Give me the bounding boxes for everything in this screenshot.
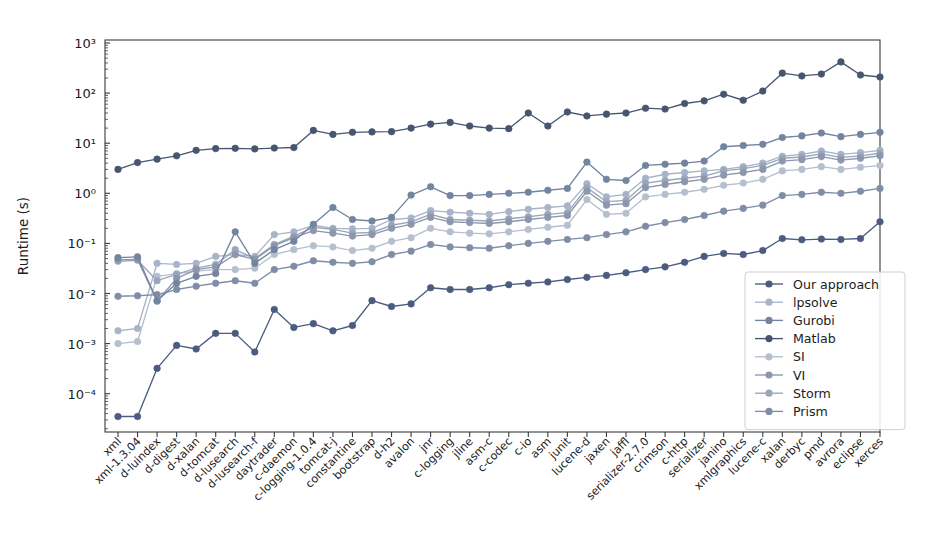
y-tick-label: 10⁻³	[67, 337, 96, 352]
legend-label: Gurobi	[793, 313, 835, 328]
data-point	[545, 214, 552, 221]
data-point	[173, 280, 180, 287]
data-point	[310, 221, 317, 228]
data-point	[193, 283, 200, 290]
data-point	[603, 176, 610, 183]
data-point	[466, 123, 473, 130]
data-point	[681, 100, 688, 107]
data-point	[408, 192, 415, 199]
data-point	[838, 133, 845, 140]
data-point	[740, 169, 747, 176]
chart-legend: Our approachlpsolveGurobiMatlabSIVIStorm…	[745, 272, 905, 430]
data-point	[466, 210, 473, 217]
data-point	[408, 301, 415, 308]
data-point	[193, 273, 200, 280]
data-point	[720, 172, 727, 179]
data-point	[564, 276, 571, 283]
data-point	[857, 188, 864, 195]
data-point	[115, 328, 122, 335]
data-point	[369, 218, 376, 225]
data-point	[779, 70, 786, 77]
data-point	[564, 203, 571, 210]
data-point	[486, 284, 493, 291]
data-point	[486, 191, 493, 198]
data-point	[349, 233, 356, 240]
data-point	[877, 129, 884, 136]
data-point	[466, 219, 473, 226]
data-point	[701, 186, 708, 193]
data-point	[466, 230, 473, 237]
y-tick-label: 10⁻²	[67, 287, 96, 302]
data-point	[662, 264, 669, 271]
data-point	[720, 250, 727, 257]
data-point	[662, 171, 669, 178]
data-point	[779, 158, 786, 165]
data-point	[662, 161, 669, 168]
data-point	[740, 142, 747, 149]
data-point	[271, 246, 278, 253]
data-point	[310, 257, 317, 264]
data-point	[701, 176, 708, 183]
data-point	[877, 185, 884, 192]
data-point	[232, 266, 239, 273]
data-point	[584, 188, 591, 195]
data-point	[212, 330, 219, 337]
data-point	[408, 248, 415, 255]
data-point	[369, 245, 376, 252]
data-point	[779, 192, 786, 199]
data-point	[427, 121, 434, 128]
data-point	[818, 236, 825, 243]
data-point	[584, 159, 591, 166]
data-point	[251, 146, 258, 153]
data-point	[603, 211, 610, 218]
data-point	[271, 266, 278, 273]
data-point	[115, 254, 122, 261]
data-point	[173, 342, 180, 349]
data-point	[720, 208, 727, 215]
data-point	[779, 134, 786, 141]
data-point	[212, 253, 219, 260]
data-point	[877, 218, 884, 225]
data-point	[740, 205, 747, 212]
data-point	[232, 277, 239, 284]
data-point	[603, 202, 610, 209]
data-point	[838, 236, 845, 243]
data-point	[310, 242, 317, 249]
legend-label: Storm	[793, 386, 831, 401]
data-point	[799, 237, 806, 244]
data-point	[877, 162, 884, 169]
legend-label: lpsolve	[793, 295, 838, 310]
data-point	[173, 153, 180, 160]
data-point	[505, 218, 512, 225]
data-point	[740, 180, 747, 187]
data-point	[330, 131, 337, 138]
x-tick-labels: xmlxml-1.3.04d-luindexd-digestd-xaland-t…	[92, 434, 886, 503]
data-point	[584, 196, 591, 203]
data-point	[251, 280, 258, 287]
data-point	[154, 365, 161, 372]
data-point	[115, 166, 122, 173]
data-point	[642, 184, 649, 191]
data-point	[838, 166, 845, 173]
data-point	[408, 125, 415, 132]
data-point	[584, 113, 591, 120]
data-point	[681, 216, 688, 223]
data-point	[662, 181, 669, 188]
data-point	[271, 306, 278, 313]
data-point	[310, 320, 317, 327]
data-point	[662, 191, 669, 198]
data-point	[466, 244, 473, 251]
data-point	[427, 241, 434, 248]
data-point	[310, 127, 317, 134]
data-point	[115, 293, 122, 300]
data-point	[545, 123, 552, 130]
data-point	[408, 221, 415, 228]
data-point	[466, 192, 473, 199]
legend-label: Prism	[793, 404, 828, 419]
data-point	[134, 159, 141, 166]
data-point	[759, 88, 766, 95]
data-point	[427, 225, 434, 232]
data-point	[662, 219, 669, 226]
y-axis-label: Runtime (s)	[15, 197, 31, 275]
data-point	[505, 229, 512, 236]
